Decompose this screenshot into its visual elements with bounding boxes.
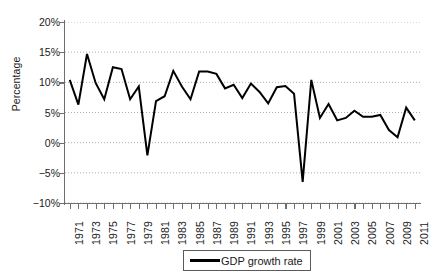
gridlines [65,22,420,203]
y-tick-mark [59,82,65,83]
x-tick-mark [294,204,295,209]
x-tick-label: 2001 [333,221,344,245]
x-tick-mark [329,204,330,209]
x-tick-mark [268,204,269,209]
x-tick-mark [406,204,407,209]
x-tick-mark [147,204,148,209]
x-tick-mark [389,204,390,209]
plot-area [65,22,420,203]
x-tick-mark [380,204,381,209]
x-tick-label: 1975 [108,221,119,245]
y-tick-mark [59,22,65,23]
x-tick-label: 1987 [212,221,223,245]
y-axis-tick-labels: 20%15%10%5%0%−5%−10% [14,0,60,280]
y-tick-label: −5% [14,168,60,178]
y-tick-label: −10% [14,198,60,208]
x-tick-mark [260,204,261,209]
y-tick-label: 5% [14,108,60,118]
x-tick-mark [234,204,235,209]
x-tick-mark [363,204,364,209]
gdp-growth-rate-line-chart: Percentage 20%15%10%5%0%−5%−10% 19711973… [0,0,437,280]
x-tick-mark [104,204,105,209]
y-tick-mark [59,113,65,114]
legend-label-gdp-growth-rate: GDP growth rate [221,255,303,267]
x-tick-mark [303,204,304,209]
x-tick-label: 1971 [74,221,85,245]
x-tick-label: 1993 [264,221,275,245]
x-tick-label: 1995 [281,221,292,245]
y-tick-mark [59,52,65,53]
x-tick-mark [199,204,200,209]
x-tick-mark [130,204,131,209]
x-tick-label: 2005 [367,221,378,245]
x-tick-label: 2007 [385,221,396,245]
x-tick-mark [70,204,71,209]
x-tick-label: 1973 [91,221,102,245]
x-tick-mark [251,204,252,209]
x-tick-mark [191,204,192,209]
y-tick-mark [59,203,65,204]
y-tick-mark [59,173,65,174]
x-tick-label: 2003 [350,221,361,245]
x-tick-mark [78,204,79,209]
plot-svg [65,22,420,203]
x-tick-mark [139,204,140,209]
x-tick-mark [242,204,243,209]
x-tick-label: 1999 [316,221,327,245]
x-tick-label: 1997 [298,221,309,245]
x-tick-mark [216,204,217,209]
x-tick-mark [165,204,166,209]
y-tick-label: 10% [14,77,60,87]
x-tick-label: 1979 [143,221,154,245]
x-tick-mark [346,204,347,209]
series-line-gdp-growth-rate [70,54,415,182]
legend-line-swatch [190,259,220,261]
x-tick-mark [337,204,338,209]
x-tick-mark [122,204,123,209]
y-tick-label: 0% [14,138,60,148]
x-tick-mark [96,204,97,209]
x-tick-mark [182,204,183,209]
x-tick-mark [156,204,157,209]
x-tick-mark [87,204,88,209]
x-tick-mark [277,204,278,209]
x-tick-label: 1977 [126,221,137,245]
x-tick-mark [113,204,114,209]
x-tick-mark [173,204,174,209]
x-tick-label: 1983 [177,221,188,245]
x-tick-mark [398,204,399,209]
x-tick-mark [372,204,373,209]
y-tick-mark [59,143,65,144]
x-tick-mark [208,204,209,209]
x-tick-mark [415,204,416,209]
x-tick-mark [285,204,286,209]
x-tick-label: 2009 [402,221,413,245]
x-tick-label: 1989 [229,221,240,245]
x-tick-mark [320,204,321,209]
data-series-lines [70,54,415,182]
x-tick-label: 2011 [419,222,430,245]
x-tick-label: 1991 [246,221,257,245]
y-tick-label: 15% [14,47,60,57]
x-tick-mark [354,204,355,209]
x-tick-label: 1981 [160,221,171,245]
x-tick-label: 1985 [195,221,206,245]
chart-legend: GDP growth rate [183,250,311,271]
x-tick-mark [311,204,312,209]
x-tick-mark [225,204,226,209]
y-tick-label: 20% [14,17,60,27]
